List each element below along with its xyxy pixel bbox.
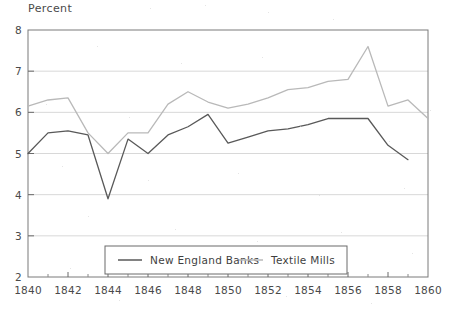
scan-speckle	[286, 296, 287, 297]
x-tick-label: 1842	[54, 284, 82, 296]
scan-speckle	[62, 166, 63, 167]
x-tick-label: 1840	[14, 284, 42, 296]
scan-speckle	[352, 72, 353, 73]
scan-speckle	[389, 141, 390, 142]
gridlines	[28, 71, 428, 236]
x-tick-label: 1858	[374, 284, 402, 296]
scan-speckle	[88, 216, 89, 217]
scan-speckle	[319, 195, 320, 196]
x-tick-label: 1846	[134, 284, 162, 296]
scan-speckle	[333, 19, 334, 20]
scan-speckle	[70, 268, 71, 269]
data-series-lines	[28, 46, 428, 198]
y-tick-label: 4	[15, 189, 22, 201]
scan-speckle	[430, 110, 431, 111]
scan-speckle	[129, 117, 130, 118]
scan-speckle	[205, 5, 206, 6]
scan-speckle	[148, 180, 149, 181]
chart-container: Percent 2345678 184018421844184618481850…	[0, 0, 451, 319]
legend[interactable]: New England BanksTextile Mills	[105, 246, 347, 274]
scan-speckle	[371, 303, 372, 304]
x-tick-label: 1844	[94, 284, 122, 296]
scan-speckle	[196, 288, 197, 289]
scan-speckle	[404, 188, 405, 189]
scan-speckle	[150, 8, 151, 9]
x-tick-label: 1856	[334, 284, 362, 296]
x-axis-ticks: 1840184218441846184818501852185418561858…	[14, 272, 442, 296]
y-tick-label: 6	[15, 106, 22, 118]
scan-speckle	[300, 126, 301, 127]
x-tick-label: 1854	[294, 284, 322, 296]
series-line-textile-mills	[28, 46, 428, 153]
y-tick-label: 2	[15, 271, 22, 283]
scan-speckle	[257, 241, 258, 242]
scan-speckle	[181, 63, 182, 64]
y-axis-ticks: 2345678	[15, 24, 34, 283]
chart-svg: 2345678 18401842184418461848185018521854…	[0, 0, 451, 319]
scan-speckle	[97, 46, 98, 47]
y-tick-label: 7	[15, 65, 22, 77]
scan-speckle	[262, 57, 263, 58]
x-tick-label: 1852	[254, 284, 282, 296]
y-tick-label: 5	[15, 148, 22, 160]
scan-speckle	[119, 300, 120, 301]
scan-speckle	[268, 12, 269, 13]
scan-speckle	[412, 253, 413, 254]
legend-label-textile-mills: Textile Mills	[270, 254, 335, 266]
scan-speckle	[238, 173, 239, 174]
scan-speckle	[46, 104, 47, 105]
y-tick-label: 8	[15, 24, 22, 36]
scan-speckle	[221, 132, 222, 133]
x-tick-label: 1850	[214, 284, 242, 296]
y-tick-label: 3	[15, 230, 22, 242]
scan-speckle	[175, 229, 176, 230]
x-tick-label: 1860	[414, 284, 442, 296]
x-tick-label: 1848	[174, 284, 202, 296]
scan-speckle	[341, 232, 342, 233]
